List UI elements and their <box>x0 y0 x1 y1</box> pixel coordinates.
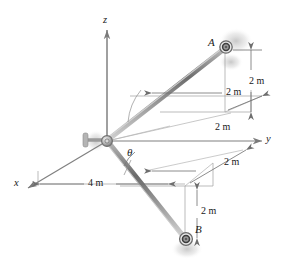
figure-drawing <box>0 0 285 270</box>
theta-angle-label: θ <box>127 147 132 158</box>
rod-ob <box>109 143 184 237</box>
y-axis-label: y <box>266 134 271 145</box>
rod-oa <box>109 49 224 139</box>
z-axis-label: z <box>103 15 107 26</box>
dim-a-depth-line <box>228 96 262 110</box>
point-b-label: B <box>195 224 202 235</box>
x-axis-label: x <box>14 178 19 189</box>
dim-a-depth-label: 2 m <box>215 122 230 132</box>
collar-a <box>220 41 232 53</box>
rod-oa-highlight <box>109 47 224 137</box>
point-a-label: A <box>208 37 215 48</box>
dim-b-depth-label: 2 m <box>224 157 239 167</box>
dim-a-horizontal-label: 2 m <box>226 87 241 97</box>
construction-lines <box>38 48 262 239</box>
collar-b <box>180 233 193 246</box>
rod-ob-highlight <box>107 144 182 238</box>
figure-container: z y x A B θ 2 m 2 m 2 m 2 m 2 m 4 m <box>0 0 285 270</box>
dimension-arrows <box>40 50 262 238</box>
dim-b-vertical-label: 2 m <box>201 206 216 216</box>
dim-a-vertical-label: 2 m <box>249 76 264 86</box>
dim-x-length-label: 4 m <box>88 178 103 188</box>
